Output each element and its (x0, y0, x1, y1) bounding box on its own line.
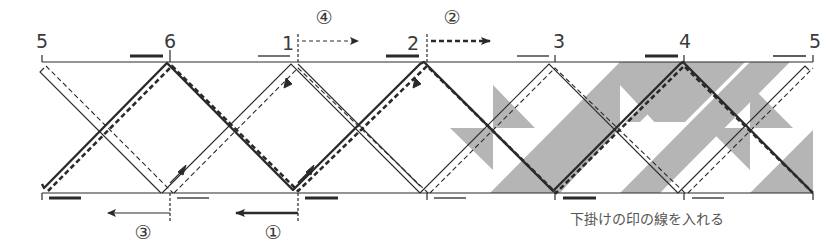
strand-arrows (170, 78, 421, 183)
shade-tri-1 (493, 85, 535, 128)
shade-tri-2 (450, 128, 493, 170)
arrow-down-left-icon (284, 78, 292, 88)
top-ticks (42, 34, 813, 62)
position-label-2: 2 (407, 34, 419, 53)
position-label-5-right: 5 (809, 32, 821, 51)
step-label-2: ② (443, 8, 460, 27)
position-label-5-left: 5 (36, 32, 48, 51)
shaded-pattern (450, 62, 813, 193)
thin-strand-dashed (174, 68, 428, 193)
step-label-1: ① (264, 223, 281, 242)
step-label-3: ③ (134, 223, 151, 242)
position-label-1: 1 (282, 34, 294, 53)
position-label-4: 4 (679, 32, 691, 51)
position-label-6: 6 (164, 32, 176, 51)
step-arrows (108, 41, 490, 213)
position-label-3: 3 (553, 32, 565, 51)
arrow-down-left-icon (413, 78, 421, 88)
caption-underlay-mark: 下掛けの印の線を入れる (570, 212, 724, 226)
step-label-4: ④ (315, 8, 332, 27)
